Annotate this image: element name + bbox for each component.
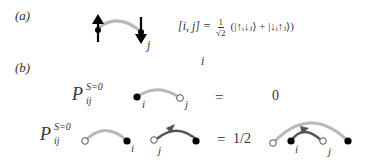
fraction-numerator: 1 (218, 17, 225, 28)
row2-lhs-hop (151, 124, 200, 145)
row2-label-j: j (158, 144, 161, 156)
equation-rhs: (|↑ᵢ↓ⱼ⟩ + |↓ᵢ↑ⱼ⟩) (231, 20, 294, 32)
row1-bond (133, 90, 183, 102)
operator-subscript: ij (86, 95, 92, 106)
row1-label-i: i (142, 98, 145, 110)
operator-superscript: S=0 (54, 121, 71, 132)
row2-rhs-outer-bond (270, 123, 352, 146)
equation-lhs: [i, j] = (178, 19, 211, 33)
row1-equals: = (215, 89, 223, 106)
filled-site-dot-icon (192, 137, 199, 144)
operator-subscript: ij (54, 135, 60, 146)
row1-projection-operator: P S=0 ij (72, 84, 132, 110)
row2-label-i: i (131, 142, 134, 154)
filled-site-dot-icon (287, 137, 294, 144)
panel-a-label: (a) (15, 8, 30, 24)
open-site-dot-icon (320, 138, 327, 145)
row2-projection-operator: P S=0 ij (40, 124, 100, 150)
operator-symbol: P (72, 84, 83, 105)
open-site-dot-icon (270, 140, 277, 147)
row2-rhs-label-i: i (295, 143, 298, 155)
filled-site-dot-icon (344, 137, 351, 144)
site-label-j: j (147, 38, 150, 53)
site-label-i: i (201, 54, 204, 69)
row2-equals: = (217, 131, 225, 148)
filled-site-dot-icon (123, 137, 130, 144)
filled-site-dot-icon (133, 93, 140, 100)
row1-label-j: j (185, 98, 188, 110)
panel-a-bond (98, 21, 141, 32)
bond-equation: [i, j] = 1 √2 (|↑ᵢ↓ⱼ⟩ + |↓ᵢ↑ⱼ⟩) (178, 17, 294, 38)
spin-up-arrow-icon (92, 14, 104, 42)
row2-result: 1/2 (233, 131, 251, 147)
row2-rhs-label-j: j (328, 145, 331, 157)
open-site-dot-icon (151, 137, 158, 144)
spin-down-arrow-icon (135, 17, 147, 44)
operator-superscript: S=0 (86, 81, 103, 92)
open-site-dot-icon (177, 95, 184, 102)
row1-result: 0 (272, 88, 279, 104)
operator-symbol: P (40, 124, 51, 145)
panel-b-label: (b) (15, 60, 30, 76)
fraction-denominator: √2 (216, 28, 225, 38)
equation-fraction: 1 √2 (216, 17, 225, 38)
